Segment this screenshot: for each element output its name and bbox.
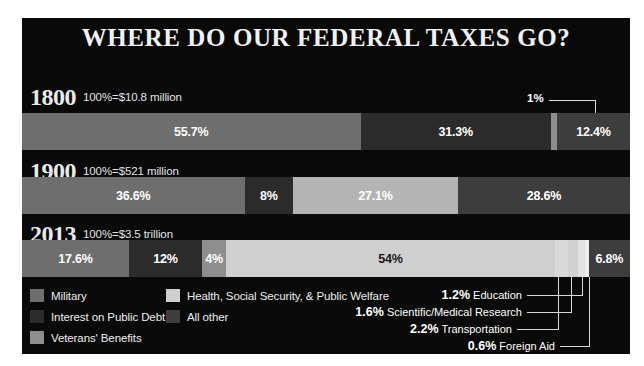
segment-2013-military[interactable]: 17.6% bbox=[22, 240, 129, 277]
segment-value: 6.8% bbox=[595, 252, 623, 266]
page-title: WHERE DO OUR FEDERAL TAXES GO? bbox=[22, 24, 630, 52]
legend-swatch-military-icon bbox=[30, 289, 44, 302]
annotation-label: Transportation bbox=[441, 323, 512, 335]
annotation-label: Foreign Aid bbox=[499, 340, 555, 352]
segment-2013-research[interactable] bbox=[568, 240, 578, 277]
segment-value: 27.1% bbox=[358, 189, 392, 203]
segment-value: 36.6% bbox=[116, 189, 150, 203]
legend-item-all-other[interactable]: All other bbox=[166, 307, 228, 325]
row-header-1800: 1800100%=$10.8 million bbox=[30, 84, 182, 111]
annotation-label: Education bbox=[473, 289, 522, 301]
legend-item-veterans[interactable]: Veterans' Benefits bbox=[30, 328, 142, 346]
legend-swatch-all-other-icon bbox=[166, 310, 180, 323]
callout-1800-leader-horizontal bbox=[549, 100, 595, 101]
annotation-label: Scientific/Medical Research bbox=[387, 306, 522, 318]
legend-item-health[interactable]: Health, Social Security, & Public Welfar… bbox=[166, 286, 389, 304]
segment-2013-education[interactable] bbox=[578, 240, 585, 277]
legend-item-interest[interactable]: Interest on Public Debt bbox=[30, 307, 165, 325]
total-label-2013: 100%=$3.5 trillion bbox=[83, 228, 173, 240]
total-label-1900: 100%=$521 million bbox=[83, 165, 179, 177]
segment-value: 54% bbox=[378, 252, 402, 266]
segment-1800-other[interactable]: 12.4% bbox=[557, 113, 630, 150]
legend-label: Veterans' Benefits bbox=[51, 332, 142, 344]
bar-2013: 17.6% 12% 4% 54% 6.8% bbox=[22, 240, 630, 277]
bar-1900: 36.6% 8% 27.1% 28.6% bbox=[22, 177, 630, 214]
leader-line-education-horizontal bbox=[527, 295, 583, 296]
legend-label: All other bbox=[187, 311, 228, 323]
infographic-panel: WHERE DO OUR FEDERAL TAXES GO? 1800100%=… bbox=[22, 18, 630, 354]
legend-label: Health, Social Security, & Public Welfar… bbox=[187, 290, 389, 302]
segment-2013-interest[interactable]: 12% bbox=[129, 240, 202, 277]
segment-1900-other[interactable]: 28.6% bbox=[458, 177, 630, 214]
legend-label: Interest on Public Debt bbox=[51, 311, 165, 323]
leader-line-foreign-aid-horizontal bbox=[560, 346, 590, 347]
segment-2013-other[interactable]: 6.8% bbox=[589, 240, 630, 277]
segment-value: 31.3% bbox=[439, 125, 473, 139]
annotation-value: 1.6% bbox=[355, 305, 384, 319]
segment-1900-military[interactable]: 36.6% bbox=[22, 177, 245, 214]
segment-2013-veterans[interactable]: 4% bbox=[202, 240, 226, 277]
callout-1800-veterans-value: 1% bbox=[527, 92, 544, 104]
leader-line-foreign-aid-vertical bbox=[589, 277, 590, 346]
segment-value: 17.6% bbox=[58, 252, 92, 266]
leader-line-research-horizontal bbox=[527, 312, 572, 313]
legend-swatch-interest-icon bbox=[30, 310, 44, 323]
legend-label: Military bbox=[51, 290, 87, 302]
segment-1900-veterans[interactable]: 27.1% bbox=[293, 177, 458, 214]
leader-line-research-vertical bbox=[571, 277, 572, 312]
annotation-education: 1.2% Education bbox=[442, 288, 523, 302]
segment-2013-health[interactable]: 54% bbox=[226, 240, 554, 277]
segment-value: 8% bbox=[260, 189, 278, 203]
leader-line-education-vertical bbox=[582, 277, 583, 295]
segment-1800-interest[interactable]: 31.3% bbox=[361, 113, 551, 150]
segment-1900-interest[interactable]: 8% bbox=[245, 177, 294, 214]
annotation-value: 0.6% bbox=[468, 339, 497, 353]
segment-value: 28.6% bbox=[527, 189, 561, 203]
source-note: SOURCE: Treasury Department bbox=[30, 352, 161, 354]
year-label-1800: 1800 bbox=[30, 84, 76, 111]
leader-line-transportation-vertical bbox=[558, 277, 559, 329]
segment-1800-military[interactable]: 55.7% bbox=[22, 113, 361, 150]
annotation-foreign-aid: 0.6% Foreign Aid bbox=[468, 339, 555, 353]
leader-line-transportation-horizontal bbox=[517, 329, 559, 330]
segment-value: 55.7% bbox=[174, 125, 208, 139]
segment-value: 4% bbox=[205, 252, 223, 266]
segment-value: 12% bbox=[153, 252, 177, 266]
annotation-value: 1.2% bbox=[442, 288, 471, 302]
annotation-value: 2.2% bbox=[410, 322, 439, 336]
segment-2013-transportation[interactable] bbox=[555, 240, 568, 277]
total-label-1800: 100%=$10.8 million bbox=[83, 91, 182, 103]
segment-value: 12.4% bbox=[576, 125, 610, 139]
legend-item-military[interactable]: Military bbox=[30, 286, 87, 304]
legend-swatch-veterans-icon bbox=[30, 331, 44, 344]
annotation-transportation: 2.2% Transportation bbox=[410, 322, 512, 336]
bar-1800: 55.7% 31.3% 12.4% bbox=[22, 113, 630, 150]
annotation-research: 1.6% Scientific/Medical Research bbox=[355, 305, 522, 319]
callout-1800-leader-vertical bbox=[595, 100, 596, 113]
legend-swatch-health-icon bbox=[166, 289, 180, 302]
